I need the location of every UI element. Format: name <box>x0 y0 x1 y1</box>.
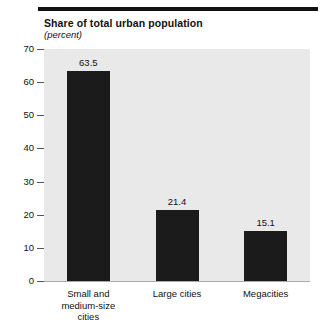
chart-subtitle: (percent) <box>44 29 82 40</box>
y-axis-tick-label: 60 <box>0 77 34 87</box>
y-axis-tick-label: 20 <box>0 210 34 220</box>
y-axis-tick-label: 10 <box>0 243 34 253</box>
bar <box>244 231 287 281</box>
x-axis-baseline <box>44 281 310 282</box>
y-axis-tick <box>37 281 44 282</box>
y-axis-tick <box>37 82 44 83</box>
bar-value-label: 21.4 <box>147 197 207 207</box>
header-rule <box>38 7 318 11</box>
category-label-line: cities <box>78 311 100 322</box>
category-label-line: medium-size <box>61 300 115 311</box>
y-axis-tick <box>37 248 44 249</box>
y-axis-tick-label: 50 <box>0 110 34 120</box>
category-label-line: Large cities <box>153 288 202 299</box>
x-axis-category-label: Megacities <box>222 288 310 300</box>
bar <box>67 71 110 281</box>
y-axis-tick <box>37 115 44 116</box>
y-axis-tick <box>37 182 44 183</box>
y-axis-tick-label: 0 <box>0 276 34 286</box>
y-axis-tick-label: 70 <box>0 44 34 54</box>
bar <box>156 210 199 281</box>
x-axis-category-label: Large cities <box>133 288 221 300</box>
y-axis-tick <box>37 215 44 216</box>
category-label-line: Megacities <box>243 288 288 299</box>
bar-value-label: 15.1 <box>236 218 296 228</box>
chart-figure: Share of total urban population (percent… <box>0 0 327 326</box>
y-axis-tick-label: 30 <box>0 177 34 187</box>
chart-title: Share of total urban population <box>44 17 203 29</box>
x-axis-category-label: Small andmedium-sizecities <box>44 288 132 323</box>
y-axis-tick <box>37 148 44 149</box>
category-label-line: Small and <box>67 288 109 299</box>
y-axis-tick <box>37 49 44 50</box>
y-axis-tick-label: 40 <box>0 143 34 153</box>
bar-value-label: 63.5 <box>58 58 118 68</box>
